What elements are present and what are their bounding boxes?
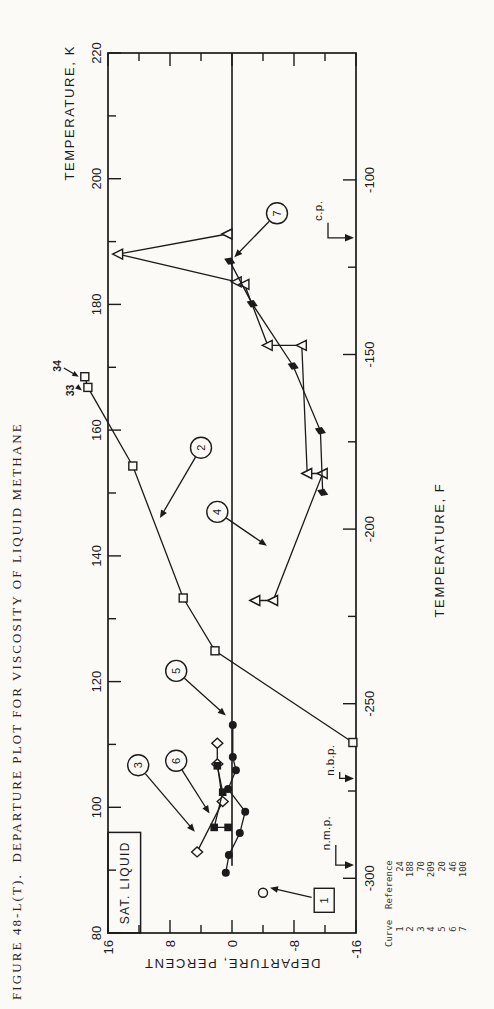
legend-row: 2188	[405, 859, 416, 947]
svg-text:2: 2	[195, 445, 207, 451]
svg-text:3: 3	[132, 762, 144, 768]
svg-text:-8: -8	[287, 940, 302, 952]
svg-text:n.b.p.: n.b.p.	[324, 745, 336, 776]
departure-chart: 80100120140160180200220-300-250-200-150-…	[0, 0, 494, 1009]
svg-text:-200: -200	[362, 516, 377, 542]
svg-text:160: 160	[89, 419, 104, 441]
legend-row: 520	[437, 859, 448, 947]
offscale-value-34: 34	[51, 360, 79, 377]
figure-caption: FIGURE 48-L(T). DEPARTURE PLOT FOR VISCO…	[9, 240, 25, 1000]
f-axis-title: TEMPERATURE, F	[432, 483, 447, 618]
f-axis-labels: -300-250-200-150-100	[362, 167, 377, 891]
svg-text:TEMPERATURE, K: TEMPERATURE, K	[62, 45, 77, 181]
legend-row: 646	[448, 859, 459, 947]
svg-text:0: 0	[225, 940, 240, 947]
svg-text:TEMPERATURE, F: TEMPERATURE, F	[432, 483, 447, 618]
svg-text:n.m.p.: n.m.p.	[320, 816, 332, 850]
page: 80100120140160180200220-300-250-200-150-…	[0, 0, 494, 1009]
legend-header-reference: Reference	[384, 859, 395, 911]
k-axis-labels: 80100120140160180200220	[89, 42, 104, 940]
legend-row: 370	[416, 859, 427, 947]
figure-canvas: 80100120140160180200220-300-250-200-150-…	[0, 0, 494, 1009]
cp-marker: c.p.	[312, 201, 354, 242]
curve-legend: Curve Reference 124 2188 370 4209 520 64…	[384, 859, 469, 947]
svg-text:100: 100	[89, 796, 104, 818]
scanned-figure-page: { "page": { "background": "#fbfaf7", "in…	[0, 0, 494, 1009]
curve-4-series: 4	[113, 229, 328, 606]
svg-text:140: 140	[89, 545, 104, 567]
svg-text:-250: -250	[362, 691, 377, 717]
svg-text:16: 16	[101, 940, 116, 954]
svg-text:1: 1	[318, 897, 330, 903]
f-axis-ticks	[343, 180, 356, 878]
k-axis-title: TEMPERATURE, K	[62, 45, 77, 181]
legend-row: 7100	[458, 859, 469, 947]
svg-text:8: 8	[163, 940, 178, 947]
sat-liquid-label: SAT. LIQUID	[108, 832, 141, 933]
pct-axis-title: DEPARTURE, PERCENT	[143, 956, 320, 971]
svg-text:6: 6	[170, 758, 182, 764]
svg-text:DEPARTURE, PERCENT: DEPARTURE, PERCENT	[143, 956, 320, 971]
svg-text:c.p.: c.p.	[312, 201, 324, 221]
svg-text:80: 80	[89, 926, 104, 940]
svg-text:-300: -300	[362, 865, 377, 891]
svg-text:180: 180	[89, 294, 104, 316]
svg-text:5: 5	[170, 668, 182, 674]
svg-text:SAT. LIQUID: SAT. LIQUID	[118, 841, 132, 924]
legend-row: 4209	[426, 859, 437, 947]
svg-text:220: 220	[89, 42, 104, 64]
legend-header-curve: Curve	[384, 911, 395, 947]
svg-text:4: 4	[211, 509, 223, 515]
svg-text:-100: -100	[362, 167, 377, 193]
svg-text:200: 200	[89, 168, 104, 190]
svg-text:-150: -150	[362, 341, 377, 367]
svg-text:120: 120	[89, 671, 104, 693]
k-axis-ticks	[108, 53, 121, 933]
curve-1-series: 1	[259, 886, 335, 912]
svg-text:34: 34	[51, 360, 63, 372]
svg-text:7: 7	[271, 210, 283, 216]
nmp-marker: n.m.p.	[320, 816, 354, 869]
offscale-value-33: 33	[64, 384, 82, 396]
nbp-marker: n.b.p.	[324, 745, 354, 783]
legend-header: Curve Reference	[384, 859, 395, 947]
curve-7-series: 7	[223, 203, 330, 499]
svg-text:-16: -16	[349, 940, 364, 959]
pct-axis-labels: 1680-8-16	[101, 940, 364, 959]
legend-row: 124	[395, 859, 406, 947]
svg-text:33: 33	[64, 385, 76, 397]
